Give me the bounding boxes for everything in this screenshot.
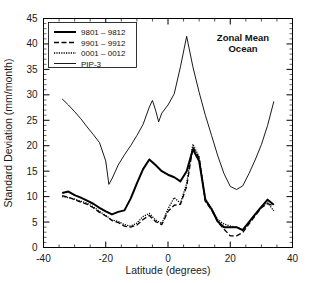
y-tick-label: 20 xyxy=(26,140,38,151)
annotation-line-2: Ocean xyxy=(228,43,257,54)
zonal-mean-ocean-line-chart: -40-2002040 051015202530354045 Latitude … xyxy=(0,0,313,283)
x-tick-label: 0 xyxy=(165,253,171,264)
y-tick-label: 0 xyxy=(32,242,38,253)
y-axis-tick-labels: 051015202530354045 xyxy=(26,13,38,253)
x-axis-title: Latitude (degrees) xyxy=(125,264,210,276)
y-tick-label: 10 xyxy=(26,191,38,202)
x-axis-tick-labels: -40-2002040 xyxy=(36,253,298,264)
y-tick-label: 5 xyxy=(32,217,38,228)
series-line xyxy=(62,144,274,229)
chart-legend: 9801 – 98129901 – 99120001 – 0012PIP-3 xyxy=(49,23,137,69)
legend-label: PIP-3 xyxy=(81,60,102,69)
x-tick-label: -20 xyxy=(99,253,114,264)
legend-label: 9801 – 9812 xyxy=(81,28,126,37)
y-tick-label: 15 xyxy=(26,166,38,177)
x-tick-label: 40 xyxy=(287,253,299,264)
annotation-line-1: Zonal Mean xyxy=(217,32,269,43)
y-tick-label: 45 xyxy=(26,13,38,24)
y-tick-label: 35 xyxy=(26,64,38,75)
y-tick-label: 40 xyxy=(26,38,38,49)
series-line xyxy=(62,147,274,236)
legend-label: 0001 – 0012 xyxy=(81,49,126,58)
y-tick-label: 30 xyxy=(26,89,38,100)
y-axis-title: Standard Deviation (mm/month) xyxy=(2,59,14,208)
legend-label: 9901 – 9912 xyxy=(81,39,126,48)
chart-figure: -40-2002040 051015202530354045 Latitude … xyxy=(0,0,313,283)
x-tick-label: 20 xyxy=(225,253,237,264)
series-line xyxy=(62,149,274,230)
x-tick-label: -40 xyxy=(36,253,51,264)
y-tick-label: 25 xyxy=(26,115,38,126)
